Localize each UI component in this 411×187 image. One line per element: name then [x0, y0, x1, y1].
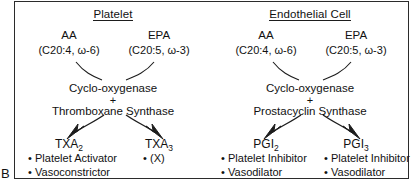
bullet-icon: •	[28, 152, 35, 166]
enzyme-block-platelet: Cyclo-oxygenase + Thromboxane Synthase	[14, 82, 212, 118]
line-epa-to-enzyme-platelet	[126, 62, 154, 80]
enzyme-operator-platelet: +	[14, 95, 212, 105]
substrate-epa-endothelial: EPA (C20:5, ω-3)	[308, 29, 404, 57]
product-pgi2-label: PGI	[253, 137, 274, 151]
effect-text: Platelet Activator	[35, 152, 117, 164]
panel-title-platelet-text: Platelet	[93, 8, 132, 21]
panel-title-platelet: Platelet	[14, 8, 212, 20]
effect-item: •Platelet Inhibitor	[221, 152, 307, 166]
line-aa-to-enzyme-endothelial	[273, 62, 299, 80]
product-pgi2: PGI2	[218, 137, 314, 151]
product-txa2: TXA2	[21, 137, 117, 151]
effect-text: Vasodilator	[228, 166, 282, 178]
substrate-aa-endothelial: AA (C20:4, ω-6)	[218, 29, 314, 57]
enzyme-operator-endothelial: +	[211, 95, 409, 105]
enzyme-second-platelet: Thromboxane Synthase	[14, 105, 212, 118]
effects-txa2: •Platelet Activator •Vasoconstrictor	[28, 152, 117, 179]
product-pgi3-label: PGI	[343, 137, 364, 151]
product-txa3: TXA3	[111, 137, 207, 151]
effects-pgi2: •Platelet Inhibitor •Vasodilator	[221, 152, 307, 179]
effect-text: Platelet Inhibitor	[228, 152, 307, 164]
substrate-epa-platelet-formula: (C20:5, ω-3)	[111, 44, 207, 58]
panel-title-endothelial: Endothelial Cell	[211, 8, 409, 20]
effect-text: (X)	[150, 152, 165, 164]
effect-text: Vasoconstrictor	[35, 166, 110, 178]
substrate-aa-platelet-formula: (C20:4, ω-6)	[21, 44, 117, 58]
substrate-aa-endothelial-name: AA	[218, 29, 314, 43]
substrate-aa-platelet-name: AA	[21, 29, 117, 43]
pathway-figure: Platelet AA (C20:4, ω-6) EPA (C20:5, ω-3…	[0, 0, 411, 187]
effect-item: •Vasodilator	[221, 166, 307, 180]
enzyme-block-endothelial: Cyclo-oxygenase + Prostacyclin Synthase	[211, 82, 409, 118]
bullet-icon: •	[324, 166, 331, 180]
substrate-epa-endothelial-name: EPA	[308, 29, 404, 43]
effects-txa3: •(X)	[143, 152, 165, 166]
effect-item: •Platelet Inhibitor	[324, 152, 410, 166]
effect-item: •Vasodilator	[324, 166, 410, 180]
effect-item: •Platelet Activator	[28, 152, 117, 166]
line-aa-to-enzyme-platelet	[76, 62, 102, 80]
panel-endothelial: Endothelial Cell AA (C20:4, ω-6) EPA (C2…	[211, 0, 409, 180]
effect-item: •(X)	[143, 152, 165, 166]
substrate-aa-endothelial-formula: (C20:4, ω-6)	[218, 44, 314, 58]
effect-text: Platelet Inhibitor	[331, 152, 410, 164]
panel-title-endothelial-text: Endothelial Cell	[269, 8, 351, 21]
line-epa-to-enzyme-endothelial	[323, 62, 351, 80]
product-txa2-label: TXA	[55, 137, 78, 151]
bullet-icon: •	[221, 166, 228, 180]
enzyme-second-endothelial: Prostacyclin Synthase	[211, 105, 409, 118]
panel-letter-b: B	[1, 166, 10, 181]
effect-item: •Vasoconstrictor	[28, 166, 117, 180]
panel-platelet: Platelet AA (C20:4, ω-6) EPA (C20:5, ω-3…	[14, 0, 212, 180]
substrate-aa-platelet: AA (C20:4, ω-6)	[21, 29, 117, 57]
substrate-epa-platelet: EPA (C20:5, ω-3)	[111, 29, 207, 57]
bullet-icon: •	[221, 152, 228, 166]
effects-pgi3: •Platelet Inhibitor •Vasodilator	[324, 152, 410, 179]
bullet-icon: •	[324, 152, 331, 166]
product-txa3-label: TXA	[145, 137, 168, 151]
bullet-icon: •	[28, 166, 35, 180]
product-pgi3: PGI3	[308, 137, 404, 151]
effect-text: Vasodilator	[331, 166, 385, 178]
bullet-icon: •	[143, 152, 150, 166]
product-txa3-subscript: 3	[168, 143, 173, 153]
substrate-epa-endothelial-formula: (C20:5, ω-3)	[308, 44, 404, 58]
substrate-epa-platelet-name: EPA	[111, 29, 207, 43]
